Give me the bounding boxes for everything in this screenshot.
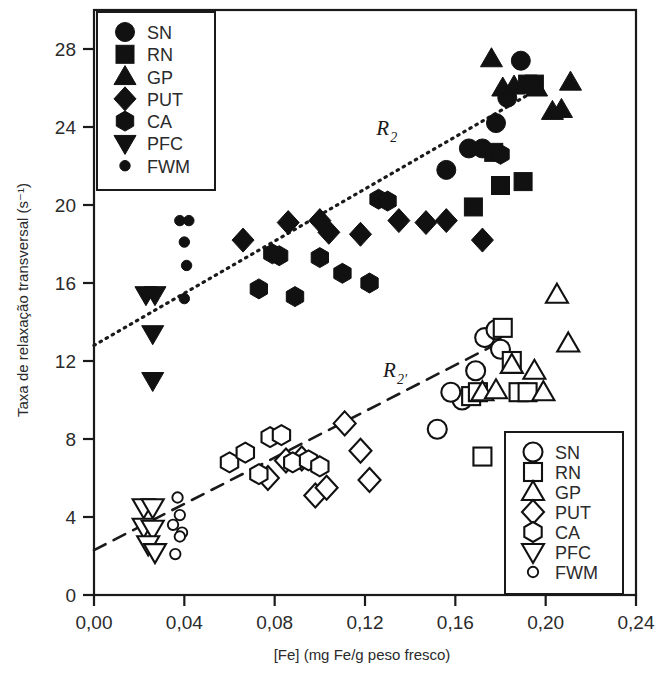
- point-CA: [361, 273, 378, 293]
- point-CA: [273, 425, 290, 445]
- legend-filled-label-SN: SN: [147, 23, 172, 43]
- point-RN: [494, 319, 512, 337]
- r2-line-label-main: R: [375, 116, 389, 140]
- x-tick-label: 0,20: [527, 612, 564, 633]
- x-tick-label: 0,08: [256, 612, 293, 633]
- point-CA: [379, 191, 396, 211]
- point-SN: [428, 420, 447, 439]
- point-FWM: [175, 531, 185, 541]
- legend-filled-label-GP: GP: [147, 68, 173, 88]
- legend-open-label-PUT: PUT: [555, 503, 591, 523]
- point-RN: [492, 177, 510, 195]
- x-axis-label: [Fe] (mg Fe/g peso fresco): [274, 646, 451, 663]
- x-tick-label: 0,04: [166, 612, 203, 633]
- y-tick-label: 24: [55, 117, 77, 138]
- point-SN: [486, 114, 505, 133]
- point-CA: [237, 443, 254, 463]
- point-FWM: [168, 520, 178, 530]
- scatter-chart: 0,000,040,080,120,160,200,24 04812162024…: [0, 0, 669, 678]
- legend-filled-label-RN: RN: [147, 45, 173, 65]
- r2prime-line-label-main: R: [382, 358, 396, 382]
- y-tick-label: 16: [55, 273, 76, 294]
- point-FWM: [170, 549, 180, 559]
- point-CA: [284, 452, 301, 472]
- point-SN: [441, 383, 460, 402]
- point-RN: [464, 198, 482, 216]
- figure-container: 0,000,040,080,120,160,200,24 04812162024…: [0, 0, 669, 678]
- legend-filled-label-CA: CA: [147, 112, 172, 132]
- legend-open: SNRNGPPUTCAPFCFWM: [505, 432, 623, 594]
- point-FWM: [172, 492, 182, 502]
- point-RN: [473, 448, 491, 466]
- legend-open-label-GP: GP: [555, 483, 581, 503]
- legend-filled-label-PUT: PUT: [147, 90, 183, 110]
- legend-open-label-CA: CA: [555, 523, 580, 543]
- point-SN: [437, 160, 456, 179]
- legend-filled-marker-RN: [116, 45, 134, 63]
- x-tick-label: 0,00: [76, 612, 113, 633]
- legend-filled-label-FWM: FWM: [147, 157, 190, 177]
- point-CA: [492, 144, 509, 164]
- legend-open-marker-FWM: [528, 567, 538, 577]
- legend-open-label-RN: RN: [555, 463, 581, 483]
- y-tick-label: 28: [55, 39, 76, 60]
- legend-filled-marker-FWM: [120, 161, 130, 171]
- x-tick-label: 0,16: [437, 612, 474, 633]
- point-CA: [271, 246, 288, 266]
- r2-line-label-sub: 2: [390, 130, 397, 145]
- y-tick-label: 4: [65, 507, 76, 528]
- y-tick-label: 0: [65, 585, 76, 606]
- point-CA: [286, 287, 303, 307]
- r2prime-line-label-sub: 2': [397, 372, 408, 387]
- legend-open-label-FWM: FWM: [555, 563, 598, 583]
- x-tick-label: 0,24: [618, 612, 655, 633]
- point-FWM: [181, 260, 191, 270]
- y-tick-label: 12: [55, 351, 76, 372]
- point-RN: [514, 173, 532, 191]
- point-FWM: [179, 293, 189, 303]
- legend-filled-marker-CA: [116, 111, 133, 131]
- point-CA: [311, 248, 328, 268]
- point-CA: [334, 263, 351, 283]
- legend-filled-label-PFC: PFC: [147, 134, 183, 154]
- point-CA: [250, 464, 267, 484]
- legend-open-marker-SN: [524, 443, 543, 462]
- legend-open-marker-RN: [524, 463, 542, 481]
- y-tick-label: 20: [55, 195, 76, 216]
- x-tick-label: 0,12: [347, 612, 384, 633]
- point-FWM: [184, 215, 194, 225]
- point-FWM: [175, 510, 185, 520]
- point-SN: [511, 51, 530, 70]
- y-axis-label: Taxa de relaxação transversal (s⁻¹): [14, 183, 31, 417]
- legend-filled: SNRNGPPUTCAPFCFWM: [97, 12, 215, 190]
- legend-open-label-PFC: PFC: [555, 543, 591, 563]
- point-SN: [466, 361, 485, 380]
- point-CA: [311, 456, 328, 476]
- y-tick-label: 8: [65, 429, 76, 450]
- legend-open-label-SN: SN: [555, 443, 580, 463]
- legend-open-marker-CA: [524, 522, 541, 542]
- point-CA: [250, 279, 267, 299]
- point-FWM: [179, 237, 189, 247]
- legend-filled-marker-SN: [116, 23, 135, 42]
